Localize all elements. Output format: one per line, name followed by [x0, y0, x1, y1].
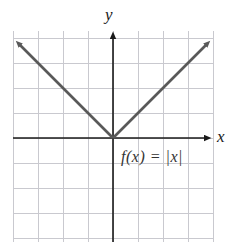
curve-right-branch — [113, 45, 206, 138]
graph-figure: y x f(x) = |x| — [0, 0, 236, 242]
function-equation-label: f(x) = |x| — [121, 148, 183, 166]
curve-left-branch — [20, 45, 113, 138]
y-axis-label: y — [105, 6, 113, 23]
coordinate-plane-svg — [0, 0, 236, 242]
x-axis-label: x — [217, 128, 225, 145]
